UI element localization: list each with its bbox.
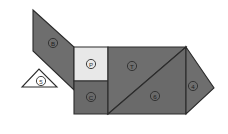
tangram-figure: B5PCT64: [0, 0, 228, 134]
piece-triangle-snout-label-text: 5: [39, 78, 43, 85]
piece-parallelogram-head-label-text: B: [51, 40, 55, 47]
piece-large-triangle-upper-label-text: T: [130, 63, 134, 70]
piece-large-triangle-lower-label-text: 6: [153, 93, 157, 100]
piece-triangle-neck-label-text: C: [89, 94, 94, 101]
piece-triangle-tail-label-text: 4: [191, 83, 195, 90]
tangram-canvas: B5PCT64: [0, 0, 228, 134]
piece-square-body-label-text: P: [89, 61, 93, 68]
